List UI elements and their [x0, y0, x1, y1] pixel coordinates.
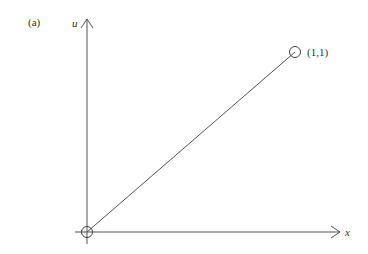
- x-axis-label: x: [344, 226, 350, 238]
- point-label: (1,1): [307, 46, 328, 59]
- diagonal-line: [87, 52, 295, 232]
- diagram-canvas: (a) u x (1,1): [0, 0, 368, 254]
- y-axis-label: u: [72, 17, 78, 29]
- panel-label: (a): [28, 16, 41, 29]
